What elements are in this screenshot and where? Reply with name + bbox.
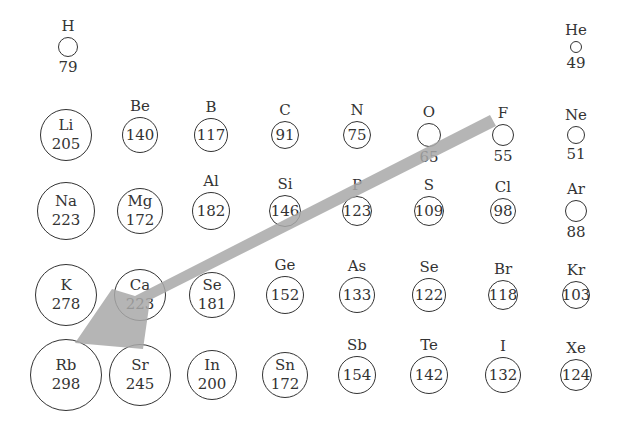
trend-arrow: [0, 0, 624, 434]
atomic-radius-diagram: H79He49Li205Be140B117C91N75O65F55Ne51Na2…: [0, 0, 624, 434]
